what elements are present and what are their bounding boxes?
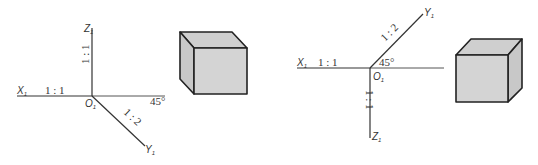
left-origin-label: O1 [85,98,96,110]
right-cube-front-face [456,55,508,102]
right-x-ratio: 1 : 1 [318,56,338,68]
left-x-ratio: 1 : 1 [45,84,65,96]
right-y-axis [370,14,423,68]
right-angle-label: 45° [379,56,394,68]
left-cube [180,32,247,94]
left-cube-front-face [194,48,247,94]
right-z-ratio: 1 : 1 [364,90,376,110]
right-x-label: X1 [296,57,307,69]
right-cube [456,39,522,102]
left-z-label: Z1 [83,23,93,35]
left-y-ratio: 1 : 2 [122,106,144,128]
oblique-projection-figure: X1 1 : 1 Z1 1 : 1 O1 45° 1 : 2 Y1 X1 1 :… [0,0,538,165]
left-x-label: X1 [16,85,27,97]
right-axis-diagram: X1 1 : 1 1 : 2 Y1 45° O1 1 : 1 Z1 [296,7,444,143]
left-angle-label: 45° [150,95,165,107]
left-y-label: Y1 [145,144,155,156]
left-axis-diagram: X1 1 : 1 Z1 1 : 1 O1 45° 1 : 2 Y1 [16,23,165,156]
right-origin-label: O1 [373,71,384,83]
right-z-label: Z1 [371,131,381,143]
left-z-ratio: 1 : 1 [79,44,91,64]
right-y-label: Y1 [424,7,434,19]
